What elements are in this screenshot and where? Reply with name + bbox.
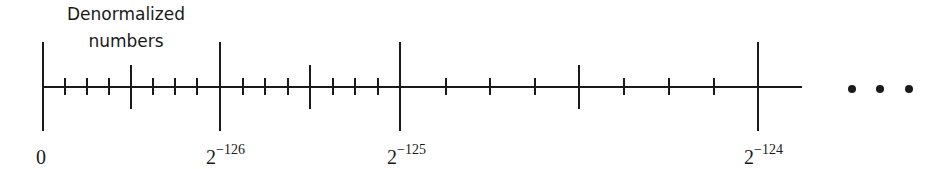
annotation-line-1: Denormalized xyxy=(58,1,194,28)
label-exponent: −124 xyxy=(754,142,783,157)
ellipsis-dot xyxy=(848,85,856,93)
label-2-pow-neg125: 2−125 xyxy=(387,146,426,168)
label-base: 2 xyxy=(206,146,216,168)
ellipsis-dot xyxy=(876,85,884,93)
label-base: 2 xyxy=(744,146,754,168)
label-2-pow-neg126: 2−126 xyxy=(206,146,245,168)
label-base: 2 xyxy=(387,146,397,168)
label-zero: 0 xyxy=(36,146,46,168)
ellipsis-dot xyxy=(905,85,913,93)
label-exponent: −125 xyxy=(397,142,426,157)
annotation-line-2: numbers xyxy=(58,28,194,55)
label-2-pow-neg124: 2−124 xyxy=(744,146,783,168)
label-exponent: −126 xyxy=(216,142,245,157)
denormalized-annotation: Denormalized numbers xyxy=(58,1,194,55)
label-zero-base: 0 xyxy=(36,146,46,168)
ellipsis-icon xyxy=(848,85,913,93)
